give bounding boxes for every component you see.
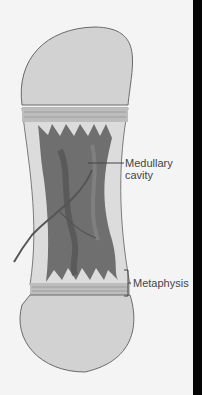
bottom-epiphysis [20, 295, 134, 372]
right-edge-border [193, 0, 202, 395]
top-growth-plate [22, 108, 128, 122]
label-line: Metaphysis [133, 277, 189, 289]
label-line: cavity [125, 169, 173, 181]
top-epiphysis [21, 27, 132, 105]
label-metaphysis: Metaphysis [133, 277, 189, 289]
bone-illustration [0, 0, 193, 395]
diagram-canvas: Medullary cavity Metaphysis [0, 0, 193, 395]
label-line: Medullary [125, 157, 173, 169]
label-medullary-cavity: Medullary cavity [125, 157, 173, 181]
bottom-growth-plate [30, 283, 130, 295]
